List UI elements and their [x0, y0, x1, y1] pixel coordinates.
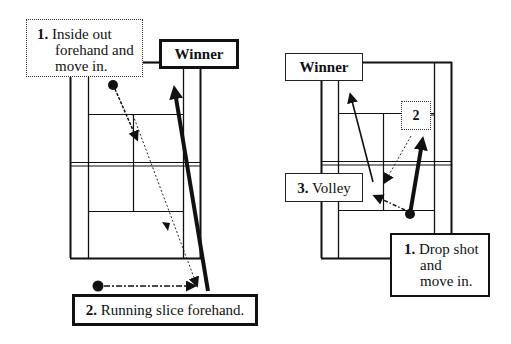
step-text: forehand and [37, 42, 142, 58]
right-court [321, 62, 452, 259]
winner-label-right: Winner [285, 53, 363, 81]
step-3-label: 3. Volley [285, 173, 363, 202]
step-text: Running slice forehand. [101, 302, 245, 318]
player-start-dot [93, 281, 104, 292]
step-number: 2. [86, 302, 97, 318]
step-number: 1. [404, 241, 415, 257]
step-text: move in. [37, 58, 142, 74]
drop-shot-arrow [410, 143, 422, 214]
left-court [70, 62, 201, 259]
step-text: and [404, 257, 488, 273]
winner-text: Winner [175, 46, 224, 62]
step-2-box: 2 [401, 101, 431, 130]
winner-volley-arrow [351, 97, 373, 182]
step-number: 2 [413, 108, 420, 124]
step-text: Volley [312, 180, 351, 196]
step-text: Inside out [52, 26, 112, 42]
step-1-label: 1. Inside out forehand and move in. [26, 19, 143, 77]
player-position-dot [108, 80, 118, 90]
step-text: Drop shot [419, 241, 479, 257]
left-shot-paths [93, 80, 209, 292]
winner-text: Winner [300, 59, 349, 75]
winner-label: Winner [159, 39, 239, 69]
player-position-dot [405, 209, 415, 219]
step-1-label-right: 1. Drop shot and move in. [390, 233, 490, 297]
step-number: 1. [37, 26, 48, 42]
step-text: move in. [404, 273, 488, 289]
winner-arrow [175, 92, 208, 291]
step-2-label: 2. Running slice forehand. [72, 294, 258, 326]
step-number: 3. [297, 180, 308, 196]
